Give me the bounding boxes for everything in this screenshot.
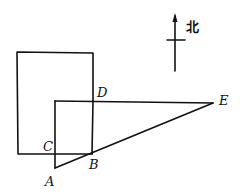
geometry-diagram: 北 A B C D E xyxy=(0,0,243,194)
point-label-B: B xyxy=(88,157,99,172)
point-label-D: D xyxy=(96,85,108,100)
north-arrowhead xyxy=(173,13,178,22)
line-D-B xyxy=(92,101,93,154)
point-label-A: A xyxy=(44,174,54,189)
line-A-E xyxy=(55,103,213,168)
north-label: 北 xyxy=(186,19,199,34)
point-label-C: C xyxy=(43,139,53,154)
line-top-D-E xyxy=(55,101,213,103)
north-arrow-icon: 北 xyxy=(167,13,199,71)
triangle-figure xyxy=(55,101,213,168)
point-label-E: E xyxy=(218,93,229,108)
